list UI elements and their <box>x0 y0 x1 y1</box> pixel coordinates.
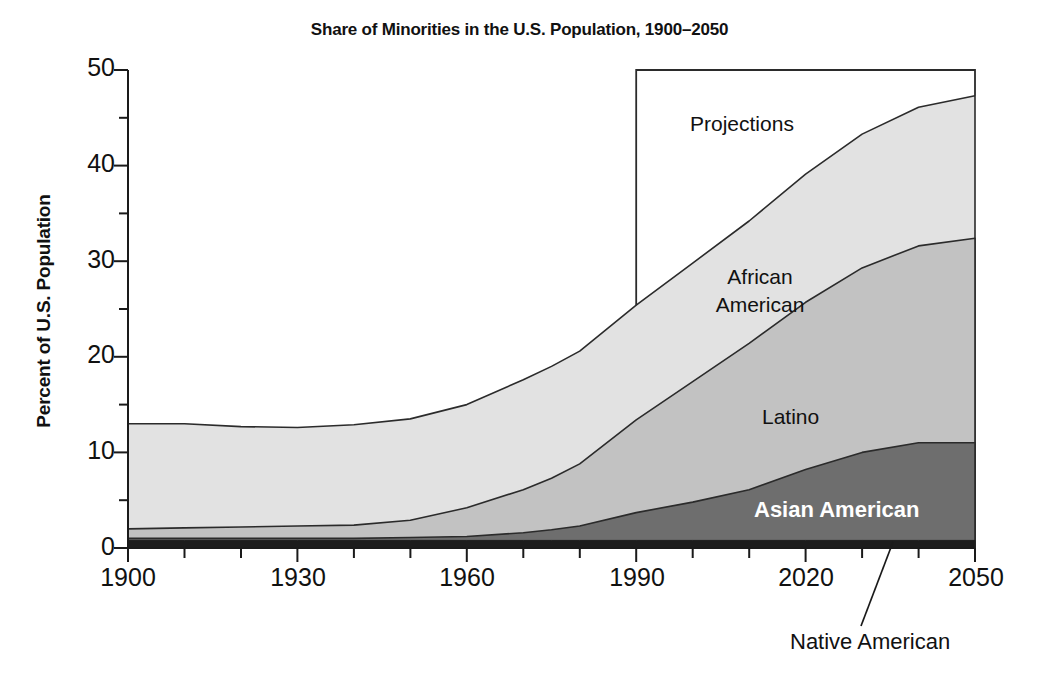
x-axis-major-ticks <box>128 548 975 562</box>
label-asian-american: Asian American <box>754 497 919 523</box>
label-projections: Projections <box>690 112 794 136</box>
label-african-american-line1: African <box>700 265 820 289</box>
x-axis-minor-ticks <box>185 548 919 558</box>
chart-figure: Share of Minorities in the U.S. Populati… <box>0 0 1039 673</box>
area-native-american <box>128 540 975 548</box>
stacked-area-plot <box>0 0 1039 673</box>
y-axis-minor-ticks <box>119 118 128 500</box>
label-african-american-line2: American <box>700 293 820 317</box>
label-latino: Latino <box>762 405 819 429</box>
native-american-leader-line <box>861 542 893 626</box>
label-native-american: Native American <box>790 629 950 655</box>
